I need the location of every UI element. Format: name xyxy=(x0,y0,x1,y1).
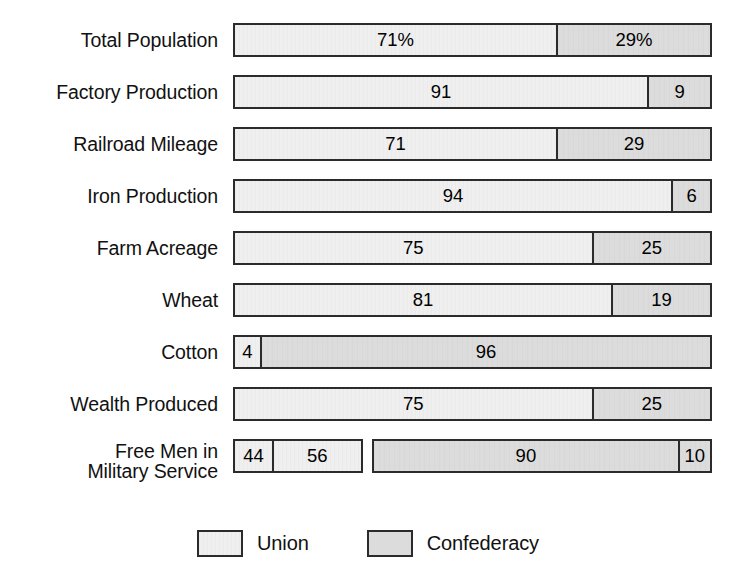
bar-value-label: 75 xyxy=(403,393,424,415)
row-label: Iron Production xyxy=(0,177,218,215)
row-label: Factory Production xyxy=(0,73,218,111)
chart-row: Wealth Produced7525 xyxy=(0,385,736,437)
bar-group: 496 xyxy=(233,335,714,369)
row-label: Total Population xyxy=(0,21,218,59)
bar-value-label: 6 xyxy=(686,185,696,207)
bar-value-label: 4 xyxy=(242,341,252,363)
bar-segment-union: 91 xyxy=(233,75,649,109)
row-label: Wealth Produced xyxy=(0,385,218,423)
bar-segment-confederacy: 90 xyxy=(372,439,680,473)
bar-segment-union: 75 xyxy=(233,231,594,265)
bar-track: 496 xyxy=(233,335,714,369)
bar-segment-union: 75 xyxy=(233,387,594,421)
chart-row: Free Men in Military Service44569010 xyxy=(0,437,736,489)
chart-row: Railroad Mileage7129 xyxy=(0,125,736,177)
bar-value-label: 29 xyxy=(624,133,645,155)
bar-segment-confederacy: 29 xyxy=(556,127,712,161)
row-label: Free Men in Military Service xyxy=(0,437,218,485)
bar-segment-union: 94 xyxy=(233,179,673,213)
bar-group: 8119 xyxy=(233,283,714,317)
bar-group: 7525 xyxy=(233,387,714,421)
bar-segment-confederacy: 96 xyxy=(260,335,712,369)
bar-track: 7129 xyxy=(233,127,714,161)
stacked-bar-chart: Total Population71%29%Factory Production… xyxy=(0,0,736,581)
legend-swatch-confederacy-icon xyxy=(367,530,413,557)
bar-segment-union: 81 xyxy=(233,283,613,317)
chart-row: Wheat8119 xyxy=(0,281,736,333)
bar-value-label: 71% xyxy=(377,29,414,51)
legend-item-union: Union xyxy=(197,530,309,557)
legend-swatch-union-icon xyxy=(197,530,243,557)
bar-segment-confederacy: 10 xyxy=(678,439,712,473)
bar-group: 946 xyxy=(233,179,714,213)
bar-segment-union: 71% xyxy=(233,23,558,57)
bar-value-label: 91 xyxy=(431,81,452,103)
bar-group: 71%29% xyxy=(233,23,714,57)
bar-segment-confederacy: 6 xyxy=(671,179,712,213)
row-label: Railroad Mileage xyxy=(0,125,218,163)
row-label: Farm Acreage xyxy=(0,229,218,267)
bar-segment-confederacy: 9 xyxy=(647,75,712,109)
bar-value-label: 44 xyxy=(243,445,264,467)
row-label: Wheat xyxy=(0,281,218,319)
legend-label-confederacy: Confederacy xyxy=(427,532,539,555)
bar-segment-confederacy: 25 xyxy=(592,231,712,265)
legend-item-confederacy: Confederacy xyxy=(367,530,539,557)
bar-track: 71%29% xyxy=(233,23,714,57)
bar-track: 44569010 xyxy=(233,439,714,473)
bar-segment-confederacy: 19 xyxy=(611,283,712,317)
bar-value-label: 56 xyxy=(307,445,328,467)
bar-value-label: 19 xyxy=(651,289,672,311)
bar-value-label: 29% xyxy=(616,29,653,51)
bar-group: 919 xyxy=(233,75,714,109)
bar-value-label: 75 xyxy=(403,237,424,259)
bar-value-label: 71 xyxy=(385,133,406,155)
bar-segment-union: 4 xyxy=(233,335,262,369)
chart-rows: Total Population71%29%Factory Production… xyxy=(0,21,736,489)
bar-value-label: 10 xyxy=(685,445,706,467)
bar-value-label: 25 xyxy=(642,237,663,259)
bar-segment-union: 44 xyxy=(233,439,274,473)
chart-row: Cotton496 xyxy=(0,333,736,385)
bar-segment-union: 71 xyxy=(233,127,558,161)
bar-segment-confederacy: 29% xyxy=(556,23,712,57)
chart-row: Total Population71%29% xyxy=(0,21,736,73)
bar-value-label: 90 xyxy=(516,445,537,467)
bar-value-label: 96 xyxy=(476,341,497,363)
bar-track: 7525 xyxy=(233,387,714,421)
chart-legend: Union Confederacy xyxy=(0,521,736,565)
bar-track: 919 xyxy=(233,75,714,109)
bar-value-label: 9 xyxy=(674,81,684,103)
legend-label-union: Union xyxy=(257,532,309,555)
bar-group: 7129 xyxy=(233,127,714,161)
chart-row: Iron Production946 xyxy=(0,177,736,229)
bar-track: 8119 xyxy=(233,283,714,317)
bar-segment-confederacy: 25 xyxy=(592,387,712,421)
bar-value-label: 94 xyxy=(443,185,464,207)
bar-segment-union: 56 xyxy=(272,439,363,473)
bar-group: 4456 xyxy=(233,439,365,473)
bar-value-label: 81 xyxy=(413,289,434,311)
row-label: Cotton xyxy=(0,333,218,371)
chart-row: Farm Acreage7525 xyxy=(0,229,736,281)
bar-group: 7525 xyxy=(233,231,714,265)
bar-track: 7525 xyxy=(233,231,714,265)
bar-track: 946 xyxy=(233,179,714,213)
bar-value-label: 25 xyxy=(642,393,663,415)
chart-row: Factory Production919 xyxy=(0,73,736,125)
bar-group: 9010 xyxy=(372,439,714,473)
